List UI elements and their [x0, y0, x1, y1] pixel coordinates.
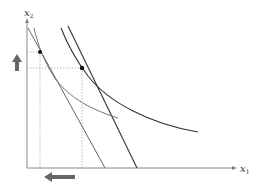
x-axis-arrowhead-icon: [232, 166, 237, 170]
y-axis-arrowhead-icon: [25, 18, 29, 23]
consumer-choice-diagram: x2 x1: [0, 0, 260, 190]
budget-line-new: [28, 28, 105, 168]
indifference-curve-high: [61, 28, 198, 132]
optimum-point-old: [80, 66, 84, 70]
optimum-point-new: [38, 50, 42, 54]
guide-lines: [27, 52, 82, 168]
budget-line-old: [68, 26, 137, 168]
y-axis-label: x2: [24, 7, 34, 19]
axes: [25, 18, 237, 170]
x-axis-label: x1: [240, 163, 249, 175]
up-arrow-icon: [12, 54, 22, 71]
left-arrow-icon: [44, 172, 75, 182]
